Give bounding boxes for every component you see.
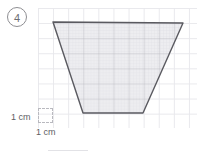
unit-label-vertical: 1 cm: [11, 112, 31, 122]
unit-label-horizontal: 1 cm: [36, 127, 56, 137]
problem-number-badge: 4: [7, 7, 27, 27]
centimetre-grid: [38, 8, 197, 128]
worksheet-page: 4 1 cm 1 cm: [0, 0, 207, 159]
unit-reference-square: [38, 108, 53, 123]
footer-rule: [48, 150, 88, 151]
